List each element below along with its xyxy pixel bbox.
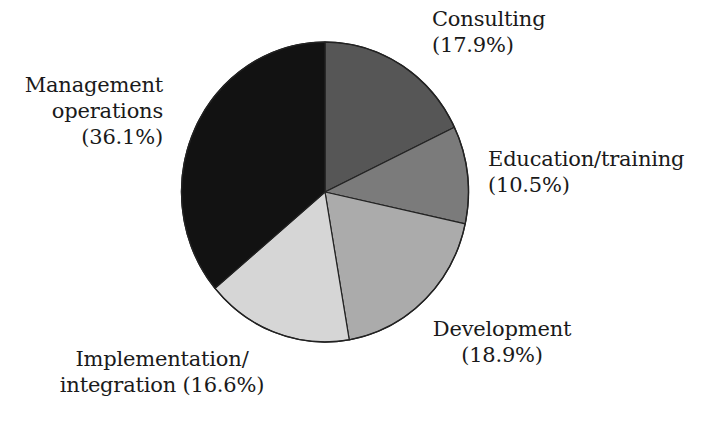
label-education: Education/training (10.5%) — [488, 146, 684, 198]
label-implementation: Implementation/ integration (16.6%) — [42, 346, 282, 398]
label-implementation-value: integration (16.6%) — [42, 372, 282, 398]
label-consulting: Consulting (17.9%) — [432, 6, 545, 58]
label-education-value: (10.5%) — [488, 172, 684, 198]
label-development: Development (18.9%) — [412, 316, 592, 368]
label-development-name: Development — [412, 316, 592, 342]
label-management-name-1: Management — [0, 72, 163, 98]
label-management: Management operations (36.1%) — [0, 72, 163, 150]
label-implementation-name: Implementation/ — [42, 346, 282, 372]
label-development-value: (18.9%) — [412, 342, 592, 368]
label-management-value: (36.1%) — [0, 124, 163, 150]
label-management-name-2: operations — [0, 98, 163, 124]
label-education-name: Education/training — [488, 146, 684, 172]
label-consulting-name: Consulting — [432, 6, 545, 32]
label-consulting-value: (17.9%) — [432, 32, 545, 58]
pie-chart: Consulting (17.9%) Education/training (1… — [0, 0, 708, 425]
